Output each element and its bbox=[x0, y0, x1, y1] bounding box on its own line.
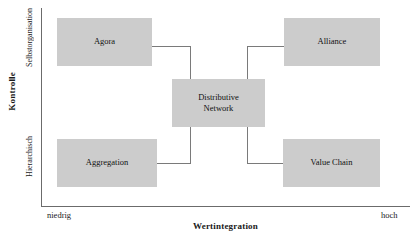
connector-valuechain-to-center bbox=[247, 163, 283, 164]
quadrant-diagram: Kontrolle Selbstorganisation Hierarchisc… bbox=[0, 0, 414, 233]
x-axis-label-left: niedrig bbox=[47, 210, 71, 220]
node-agora: Agora bbox=[57, 18, 152, 66]
x-axis-title: Wertintegration bbox=[41, 221, 410, 231]
node-aggregation: Aggregation bbox=[57, 139, 157, 187]
connector-valuechain-to-center bbox=[247, 127, 248, 164]
node-value-chain-label: Value Chain bbox=[311, 157, 353, 168]
y-axis-label-top: Selbstorganisation bbox=[26, 8, 34, 67]
node-aggregation-label: Aggregation bbox=[86, 157, 129, 168]
connector-alliance-to-center bbox=[247, 46, 284, 47]
connector-agora-to-center bbox=[190, 46, 191, 79]
connector-alliance-to-center bbox=[247, 46, 248, 79]
node-agora-label: Agora bbox=[94, 36, 115, 47]
node-value-chain: Value Chain bbox=[283, 139, 380, 187]
y-axis-label-bottom: Hierarchisch bbox=[26, 136, 34, 177]
node-alliance-label: Alliance bbox=[318, 36, 347, 47]
x-axis-line bbox=[41, 206, 410, 207]
y-axis-title: Kontrolle bbox=[8, 72, 17, 111]
connector-aggregation-to-center bbox=[190, 127, 191, 164]
node-alliance: Alliance bbox=[284, 18, 380, 66]
connector-agora-to-center bbox=[152, 46, 191, 47]
connector-aggregation-to-center bbox=[157, 163, 191, 164]
y-axis-line bbox=[41, 8, 42, 207]
node-distributive-network-label: Distributive Network bbox=[198, 92, 239, 115]
node-distributive-network: Distributive Network bbox=[172, 79, 265, 127]
x-axis-label-right: hoch bbox=[381, 210, 398, 220]
